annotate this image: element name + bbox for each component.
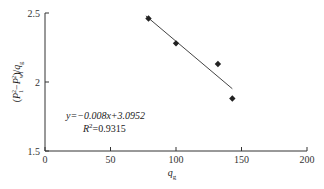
y-axis-label: (P12−Pwf2)/qg [11, 62, 24, 103]
r-squared-label: R2=0.9315 [82, 122, 126, 134]
scatter-chart: 0501001502001.522.5 y=−0.008x+3.0952 R2=… [0, 0, 324, 189]
y-tick-label: 2.5 [28, 8, 41, 19]
data-point-diamond [229, 95, 235, 101]
regression-line [146, 16, 232, 89]
data-points [145, 15, 235, 101]
x-tick-label: 100 [169, 154, 184, 165]
y-tick-label: 1.5 [28, 146, 41, 157]
trendline [146, 16, 232, 89]
x-tick-label: 150 [234, 154, 249, 165]
axes: 0501001502001.522.5 [28, 8, 315, 166]
x-axis-label: qg [168, 167, 177, 181]
x-tick-label: 200 [300, 154, 315, 165]
x-tick-label: 50 [106, 154, 116, 165]
data-point-diamond [215, 61, 221, 67]
regression-equation: y=−0.008x+3.0952 [65, 110, 145, 121]
y-tick-label: 2 [35, 77, 40, 88]
data-point-diamond [173, 40, 179, 46]
x-tick-label: 0 [43, 154, 48, 165]
